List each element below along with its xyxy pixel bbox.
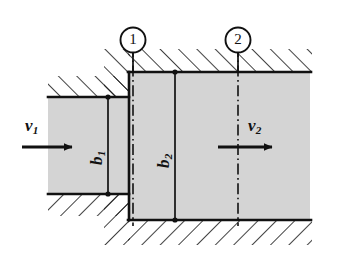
v2-label: v2 [248, 117, 261, 134]
b1-subscript: 1 [95, 151, 107, 157]
b2-subscript: 2 [162, 154, 174, 160]
section-1-number-text: 1 [129, 31, 137, 47]
section-2-number: 2 [228, 32, 248, 47]
diagram-svg [0, 0, 344, 254]
b2-label: b2 [155, 154, 172, 168]
diagram-canvas: 1 2 v1 v2 b1 b2 [0, 0, 344, 254]
v1-symbol: v [25, 116, 33, 135]
v2-subscript: 2 [256, 124, 262, 136]
b1-symbol: b [87, 157, 106, 166]
b2-symbol: b [154, 160, 173, 169]
v2-symbol: v [248, 116, 256, 135]
v1-label: v1 [25, 117, 38, 134]
b1-label: b1 [88, 151, 105, 165]
section-2-number-text: 2 [234, 31, 242, 47]
section-1-number: 1 [123, 32, 143, 47]
v1-subscript: 1 [33, 124, 39, 136]
